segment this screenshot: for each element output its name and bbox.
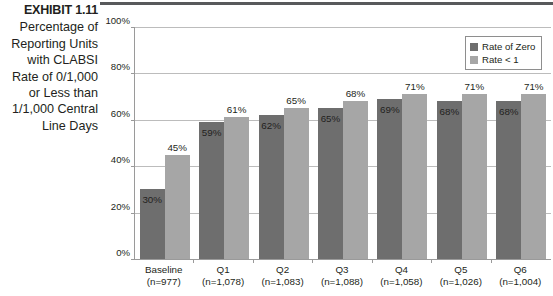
legend-label-rate-under-one: Rate < 1 bbox=[482, 54, 519, 65]
bar-q3-rate-of-zero[interactable]: 65% bbox=[318, 108, 343, 259]
bar-value-label: 71% bbox=[402, 81, 427, 92]
bar-q4-rate-of-zero[interactable]: 69% bbox=[377, 99, 402, 259]
legend-item-rate-under-one: Rate < 1 bbox=[470, 53, 535, 66]
x-category-q6: Q6(n=1,004) bbox=[485, 264, 553, 287]
y-tick-label-60pct: 60% bbox=[100, 108, 130, 119]
bar-group-q2: 62%65% bbox=[254, 27, 313, 259]
bar-group-q4: 69%71% bbox=[373, 27, 432, 259]
y-tick-mark bbox=[131, 259, 135, 260]
x-axis-tick bbox=[372, 259, 373, 263]
bar-value-label: 68% bbox=[437, 106, 462, 117]
x-axis-tick bbox=[193, 259, 194, 263]
y-tick-label-40pct: 40% bbox=[100, 154, 130, 165]
bar-value-label: 61% bbox=[224, 104, 249, 115]
bar-value-label: 59% bbox=[199, 127, 224, 138]
caption-line-6: 1/1,000 Central bbox=[0, 101, 98, 117]
x-axis-tick bbox=[491, 259, 492, 263]
bar-value-label: 45% bbox=[165, 142, 190, 153]
bar-group-q1: 59%61% bbox=[194, 27, 253, 259]
bar-q2-rate-of-zero[interactable]: 62% bbox=[259, 115, 284, 259]
caption-line-2: Reporting Units bbox=[0, 36, 98, 52]
legend-label-rate-of-zero: Rate of Zero bbox=[482, 41, 535, 52]
bar-group-baseline: 30%45% bbox=[135, 27, 194, 259]
header-rule bbox=[100, 2, 553, 5]
bar-value-label: 65% bbox=[318, 113, 343, 124]
bar-value-label: 68% bbox=[343, 88, 368, 99]
bar-q1-rate-1[interactable]: 61% bbox=[224, 117, 249, 259]
exhibit-caption: EXHIBIT 1.11 Percentage of Reporting Uni… bbox=[0, 2, 98, 134]
caption-line-4: Rate of 0/1,000 bbox=[0, 69, 98, 85]
bar-baseline-rate-of-zero[interactable]: 30% bbox=[140, 189, 165, 259]
caption-line-1: Percentage of bbox=[0, 19, 98, 35]
x-axis-tick bbox=[253, 259, 254, 263]
bar-baseline-rate-1[interactable]: 45% bbox=[165, 155, 190, 259]
legend-item-rate-of-zero: Rate of Zero bbox=[470, 40, 535, 53]
bar-value-label: 65% bbox=[284, 95, 309, 106]
exhibit-number: EXHIBIT 1.11 bbox=[0, 2, 98, 18]
legend-swatch-icon-dark bbox=[470, 43, 478, 51]
bar-q6-rate-1[interactable]: 71% bbox=[521, 94, 546, 259]
y-tick-label-20pct: 20% bbox=[100, 201, 130, 212]
y-tick-label-0pct: 0% bbox=[100, 247, 130, 258]
bar-value-label: 62% bbox=[259, 120, 284, 131]
bar-value-label: 69% bbox=[377, 104, 402, 115]
bar-value-label: 30% bbox=[140, 194, 165, 205]
bar-q5-rate-1[interactable]: 71% bbox=[462, 94, 487, 259]
x-axis-tick bbox=[312, 259, 313, 263]
bar-q5-rate-of-zero[interactable]: 68% bbox=[437, 101, 462, 259]
bar-value-label: 71% bbox=[521, 81, 546, 92]
bar-q1-rate-of-zero[interactable]: 59% bbox=[199, 122, 224, 259]
bar-q4-rate-1[interactable]: 71% bbox=[402, 94, 427, 259]
bar-value-label: 68% bbox=[496, 106, 521, 117]
y-tick-label-100pct: 100% bbox=[100, 15, 130, 26]
gridline-0pct bbox=[135, 259, 551, 260]
legend-swatch-icon-light bbox=[470, 56, 478, 64]
bar-group-q3: 65%68% bbox=[313, 27, 372, 259]
x-category-name: Q6 bbox=[485, 264, 553, 276]
x-category-count: (n=1,004) bbox=[485, 276, 553, 288]
bar-q6-rate-of-zero[interactable]: 68% bbox=[496, 101, 521, 259]
bar-q2-rate-1[interactable]: 65% bbox=[284, 108, 309, 259]
caption-line-5: or Less than bbox=[0, 85, 98, 101]
chart-legend: Rate of Zero Rate < 1 bbox=[465, 36, 542, 70]
bar-chart: 30%45%59%61%62%65%65%68%69%71%68%71%68%7… bbox=[100, 14, 553, 296]
bar-q3-rate-1[interactable]: 68% bbox=[343, 101, 368, 259]
bar-value-label: 71% bbox=[462, 81, 487, 92]
caption-line-3: with CLABSI bbox=[0, 52, 98, 68]
y-tick-label-80pct: 80% bbox=[100, 61, 130, 72]
caption-line-7: Line Days bbox=[0, 118, 98, 134]
x-axis-tick bbox=[431, 259, 432, 263]
